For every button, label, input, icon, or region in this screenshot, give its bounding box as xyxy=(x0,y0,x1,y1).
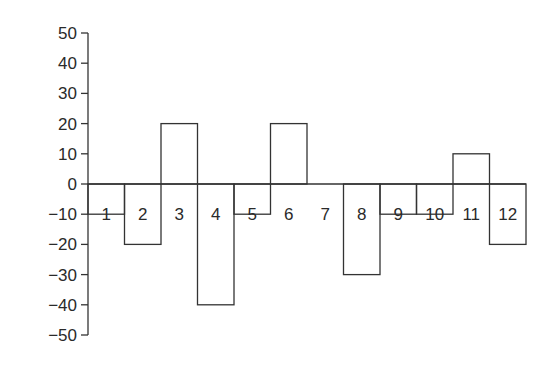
category-label: 9 xyxy=(394,205,403,224)
y-tick-label: −30 xyxy=(48,266,77,285)
y-tick-label: −40 xyxy=(48,296,77,315)
y-tick-label: 50 xyxy=(58,24,77,43)
y-tick-label: 40 xyxy=(58,54,77,73)
y-tick-label: −20 xyxy=(48,235,77,254)
bar-11 xyxy=(453,154,490,184)
category-label: 3 xyxy=(175,205,184,224)
bar-3 xyxy=(161,124,198,184)
category-label: 10 xyxy=(425,205,444,224)
y-tick-label: 0 xyxy=(68,175,77,194)
category-label: 2 xyxy=(138,205,147,224)
category-label: 11 xyxy=(462,205,480,224)
bar-4 xyxy=(198,184,235,305)
bar-chart: 50403020100−10−20−30−40−50 1234567891011… xyxy=(0,0,556,372)
category-label: 6 xyxy=(284,205,293,224)
y-axis: 50403020100−10−20−30−40−50 xyxy=(48,24,88,345)
y-tick-label: 10 xyxy=(58,145,77,164)
category-labels: 123456789101112 xyxy=(102,205,518,224)
category-label: 1 xyxy=(102,205,111,224)
category-label: 8 xyxy=(357,205,366,224)
bars xyxy=(88,124,526,305)
category-label: 7 xyxy=(321,205,330,224)
category-label: 12 xyxy=(498,205,517,224)
y-tick-label: 20 xyxy=(58,115,77,134)
y-tick-label: −50 xyxy=(48,326,77,345)
bar-6 xyxy=(271,124,308,184)
category-label: 4 xyxy=(211,205,220,224)
y-tick-label: −10 xyxy=(48,205,77,224)
category-label: 5 xyxy=(248,205,257,224)
y-tick-label: 30 xyxy=(58,84,77,103)
bar-8 xyxy=(344,184,381,275)
